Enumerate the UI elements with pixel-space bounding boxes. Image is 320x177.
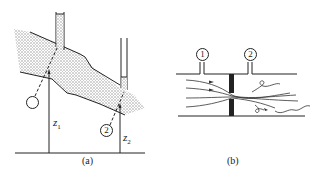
tap-2-marker: 2: [244, 48, 257, 61]
z1-label: z1: [53, 117, 61, 131]
figure-b: [176, 62, 310, 116]
streamlines: [186, 80, 310, 113]
figure-b-caption: (b): [227, 156, 239, 166]
point-1-marker: [26, 96, 39, 109]
orifice-plate-bottom: [229, 99, 234, 116]
pipe-top-wall: [176, 62, 297, 74]
z2-subscript: 2: [127, 138, 131, 146]
figure-a-caption: (a): [82, 156, 93, 166]
orifice-plate-top: [229, 74, 234, 93]
tap-1-marker: 1: [196, 48, 209, 61]
z1-subscript: 1: [57, 123, 61, 131]
diagram-drawing: [0, 0, 320, 177]
z2-label: z2: [123, 132, 131, 146]
diagram-root: 2 z1 z2 (a) 1 2 (b): [0, 0, 320, 177]
point-2-marker: 2: [100, 124, 113, 137]
